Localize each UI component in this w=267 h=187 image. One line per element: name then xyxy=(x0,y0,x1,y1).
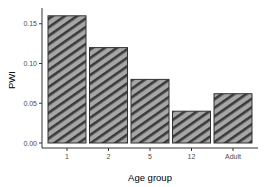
x-tick-label: 5 xyxy=(148,153,152,160)
y-tick-label: 0.00 xyxy=(23,140,37,147)
y-tick-label: 0.05 xyxy=(23,100,37,107)
y-axis-title: PWI xyxy=(6,71,17,89)
x-tick-label: 1 xyxy=(65,153,69,160)
y-tick-label: 0.10 xyxy=(23,60,37,67)
x-tick-label: Adult xyxy=(225,153,241,160)
bar-5 xyxy=(131,79,169,143)
bar-12 xyxy=(173,111,211,143)
y-axis: 0.000.050.100.15 xyxy=(23,8,42,148)
bar-adult xyxy=(214,94,252,143)
bar-chart: 0.000.050.100.15 12512Adult Age group PW… xyxy=(0,0,267,187)
bars-group xyxy=(48,16,252,143)
x-axis: 12512Adult xyxy=(42,148,258,160)
x-axis-title: Age group xyxy=(128,172,172,183)
bar-2 xyxy=(90,48,128,143)
bar-1 xyxy=(48,16,86,143)
x-tick-label: 2 xyxy=(107,153,111,160)
y-tick-label: 0.15 xyxy=(23,20,37,27)
x-tick-label: 12 xyxy=(188,153,196,160)
